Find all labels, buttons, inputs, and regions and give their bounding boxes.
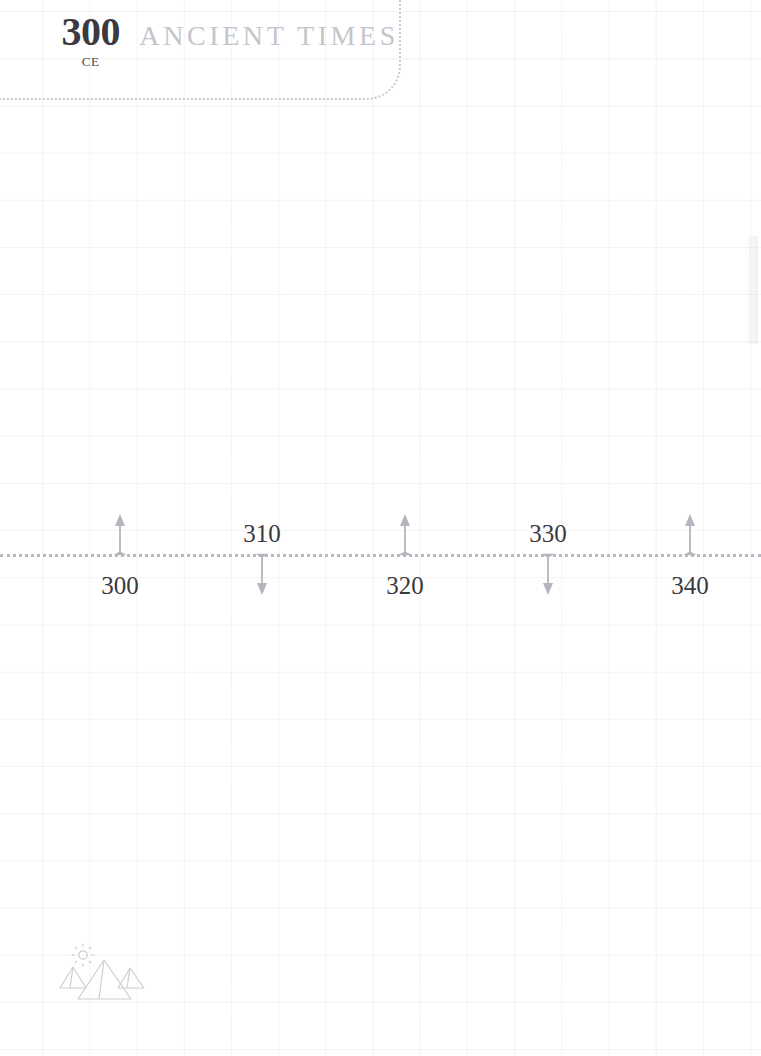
era-suffix: CE xyxy=(54,55,127,69)
timeline-page: 300 CE ANCIENT TIMES 300310320330340 xyxy=(0,0,761,1056)
timeline: 300310320330340 xyxy=(0,490,761,620)
tick-arrow-up-icon xyxy=(683,511,697,561)
timeline-tick-label: 340 xyxy=(630,573,750,598)
tick-arrow-up-icon xyxy=(113,511,127,561)
era-header-plaque: 300 CE ANCIENT TIMES xyxy=(0,0,401,100)
timeline-tick-label: 300 xyxy=(60,573,180,598)
timeline-tick: 320 xyxy=(345,490,465,620)
timeline-tick: 340 xyxy=(630,490,750,620)
timeline-tick: 300 xyxy=(60,490,180,620)
era-year-block: 300 CE xyxy=(54,12,127,69)
tick-arrow-down-icon xyxy=(255,552,269,602)
tick-arrow-down-icon xyxy=(541,552,555,602)
timeline-tick-label: 330 xyxy=(488,521,608,546)
era-name: ANCIENT TIMES xyxy=(139,22,399,50)
timeline-tick: 310 xyxy=(202,490,322,620)
page-edge-shading xyxy=(744,236,758,344)
timeline-tick-label: 310 xyxy=(202,521,322,546)
timeline-tick-label: 320 xyxy=(345,573,465,598)
timeline-tick: 330 xyxy=(488,490,608,620)
pyramids-sun-icon xyxy=(56,941,148,1003)
era-year: 300 xyxy=(54,12,127,52)
tick-arrow-up-icon xyxy=(398,511,412,561)
